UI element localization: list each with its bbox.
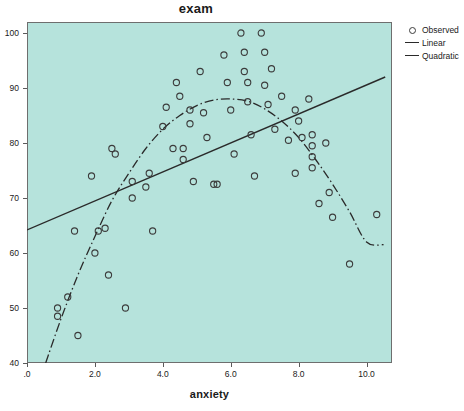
data-point [197,68,203,74]
data-point [258,30,264,36]
data-point [190,178,196,184]
data-point [292,170,298,176]
data-point [105,272,111,278]
data-point [309,132,315,138]
data-point [285,137,291,143]
data-point [102,225,108,231]
data-point [346,261,352,267]
data-point [262,82,268,88]
data-point [268,66,274,72]
data-point [326,189,332,195]
quadratic-trend-line [46,99,384,363]
legend-item-observed: Observed [404,24,464,37]
data-point [224,79,230,85]
y-tick-label: 80 [0,139,19,148]
data-point [180,145,186,151]
observed-data-points [54,30,379,339]
data-point [143,184,149,190]
data-point [262,49,268,55]
data-point [221,52,227,58]
data-point [238,30,244,36]
data-point [292,107,298,113]
data-point [163,104,169,110]
data-point [170,145,176,151]
y-tick-label: 100 [0,29,19,38]
y-tick-mark [23,143,27,144]
data-point [306,96,312,102]
y-tick-mark [23,253,27,254]
data-point [180,156,186,162]
y-tick-label: 40 [0,359,19,368]
data-point [279,93,285,99]
x-tick-label: 4.0 [148,370,178,379]
line-segment-icon [404,51,420,61]
x-tick-label: 6.0 [216,370,246,379]
data-point [177,93,183,99]
data-point [329,214,335,220]
circle-marker-icon [404,25,420,35]
data-point [241,68,247,74]
data-point [231,151,237,157]
y-tick-mark [23,198,27,199]
data-point [241,49,247,55]
y-tick-mark [23,88,27,89]
y-tick-label: 50 [0,304,19,313]
data-point [92,250,98,256]
x-tick-mark [299,363,300,367]
x-tick-mark [27,363,28,367]
x-tick-label: 10.0 [352,370,382,379]
x-axis-label: anxiety [27,388,392,400]
y-tick-mark [23,308,27,309]
data-point [150,228,156,234]
data-point [296,118,302,124]
legend-item-linear: Linear [404,37,464,50]
data-point [112,151,118,157]
legend-label-linear: Linear [422,38,446,48]
legend-label-observed: Observed [422,25,459,35]
data-point [309,143,315,149]
x-tick-mark [367,363,368,367]
data-point [228,107,234,113]
data-point [129,195,135,201]
data-point [245,79,251,85]
data-point [200,110,206,116]
x-tick-label: 8.0 [284,370,314,379]
data-point [265,101,271,107]
data-point [204,134,210,140]
chart-title: exam [0,1,392,16]
legend-item-quadratic: Quadratic [404,50,464,63]
data-point [54,313,60,319]
line-segment-icon [404,38,420,48]
linear-trend-line [27,77,385,230]
data-point [316,200,322,206]
y-tick-mark [23,33,27,34]
data-point [187,107,193,113]
x-tick-mark [95,363,96,367]
data-point [129,178,135,184]
data-point [146,170,152,176]
x-tick-label: .0 [12,370,42,379]
y-tick-label: 60 [0,249,19,258]
data-point [71,228,77,234]
data-point [54,305,60,311]
data-point [251,173,257,179]
data-point [187,121,193,127]
data-point [272,126,278,132]
data-point [88,173,94,179]
data-point [75,332,81,338]
y-tick-label: 90 [0,84,19,93]
legend-label-quadratic: Quadratic [422,51,459,61]
y-tick-label: 70 [0,194,19,203]
chart-figure: exam 405060708090100 .02.04.06.08.010.0 … [0,0,464,411]
data-point [323,140,329,146]
data-point [122,305,128,311]
data-point [173,79,179,85]
plot-canvas [27,22,392,363]
chart-legend: Observed Linear Quadratic [404,24,464,63]
x-tick-mark [163,363,164,367]
x-tick-mark [231,363,232,367]
x-tick-label: 2.0 [80,370,110,379]
data-point [299,134,305,140]
data-point [374,211,380,217]
data-point [309,165,315,171]
